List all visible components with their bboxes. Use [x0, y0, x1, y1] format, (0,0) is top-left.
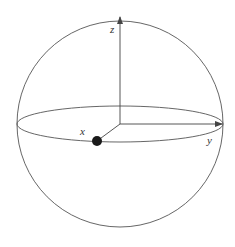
x-axis-label: x	[79, 125, 85, 137]
z-axis-label: z	[109, 23, 115, 35]
state-point	[92, 136, 102, 146]
bloch-sphere-diagram: z x y	[0, 0, 235, 247]
y-axis-label: y	[206, 134, 212, 146]
